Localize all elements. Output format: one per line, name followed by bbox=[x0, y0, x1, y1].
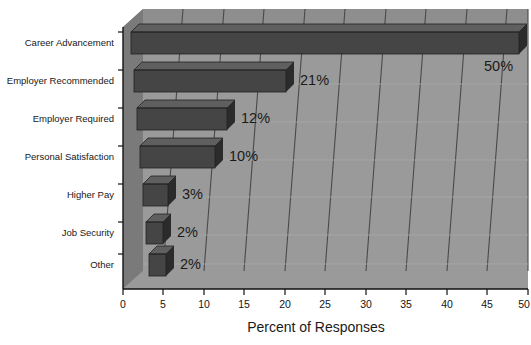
value-label-job-security: 2% bbox=[177, 224, 198, 240]
category-label-personal-satisfaction: Personal Satisfaction bbox=[25, 151, 114, 162]
value-label-employer-required: 12% bbox=[241, 110, 270, 126]
x-tick-label-5: 5 bbox=[160, 298, 166, 310]
bar-job-security bbox=[146, 214, 171, 244]
x-tick-label-10: 10 bbox=[198, 298, 210, 310]
bar-other bbox=[149, 246, 174, 276]
x-tick-label-30: 30 bbox=[360, 298, 372, 310]
x-tick-label-45: 45 bbox=[481, 298, 493, 310]
bar-personal-satisfaction bbox=[140, 138, 223, 168]
value-label-career-advancement: 50% bbox=[484, 58, 513, 74]
bar-chart: Career Advancement Employer Recommended … bbox=[0, 0, 531, 345]
value-label-higher-pay: 3% bbox=[182, 186, 203, 202]
chart-canvas: Career Advancement Employer Recommended … bbox=[0, 0, 531, 345]
bar-higher-pay bbox=[143, 176, 176, 206]
x-tick-label-15: 15 bbox=[238, 298, 250, 310]
x-axis-title: Percent of Responses bbox=[247, 319, 385, 335]
plot-floor bbox=[123, 271, 528, 289]
x-tick-label-0: 0 bbox=[120, 298, 126, 310]
x-tick-label-35: 35 bbox=[400, 298, 412, 310]
value-label-other: 2% bbox=[180, 256, 201, 272]
bar-employer-recommended bbox=[134, 62, 294, 92]
x-tick-label-40: 40 bbox=[441, 298, 453, 310]
bar-employer-required bbox=[137, 100, 235, 130]
x-tick-label-50: 50 bbox=[518, 298, 530, 310]
value-label-employer-recommended: 21% bbox=[300, 72, 329, 88]
category-label-job-security: Job Security bbox=[62, 227, 115, 238]
category-label-other: Other bbox=[90, 259, 114, 270]
category-label-higher-pay: Higher Pay bbox=[67, 189, 114, 200]
x-tick-label-25: 25 bbox=[319, 298, 331, 310]
category-label-employer-recommended: Employer Recommended bbox=[7, 75, 114, 86]
x-tick-label-20: 20 bbox=[279, 298, 291, 310]
category-label-career-advancement: Career Advancement bbox=[25, 37, 115, 48]
category-label-employer-required: Employer Required bbox=[33, 113, 114, 124]
bar-career-advancement bbox=[131, 24, 527, 54]
value-label-personal-satisfaction: 10% bbox=[229, 148, 258, 164]
